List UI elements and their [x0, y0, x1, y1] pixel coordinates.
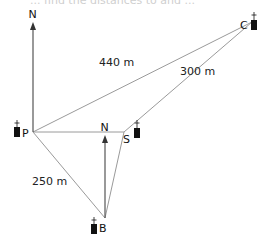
tower-icon: [91, 217, 97, 234]
north-label-p: N: [29, 8, 37, 21]
distance-pb: 250 m: [32, 175, 67, 188]
line-sb: [105, 132, 124, 218]
tower-icon: [14, 120, 20, 137]
point-label-c: C: [240, 19, 248, 32]
point-label-b: B: [99, 222, 107, 235]
point-b: B: [91, 217, 107, 235]
bearing-diagram: ... find the distances to and ... N N 44…: [0, 0, 266, 239]
point-label-s: S: [123, 133, 130, 146]
arrowhead-icon: [102, 135, 108, 143]
distance-sc: 300 m: [180, 65, 215, 78]
north-arrow-p: N: [29, 8, 37, 132]
point-p: P: [14, 120, 29, 140]
triangle-lines: [33, 22, 252, 218]
distance-pc: 440 m: [99, 56, 134, 69]
tower-icon: [134, 120, 140, 138]
cut-off-text: ... find the distances to and ...: [30, 0, 195, 7]
north-arrow-b: N: [101, 121, 109, 218]
arrowhead-icon: [30, 22, 36, 30]
point-label-p: P: [22, 127, 29, 140]
point-s: S: [123, 120, 140, 146]
tower-icon: [251, 12, 257, 30]
point-c: C: [240, 12, 257, 32]
north-label-b: N: [101, 121, 109, 134]
